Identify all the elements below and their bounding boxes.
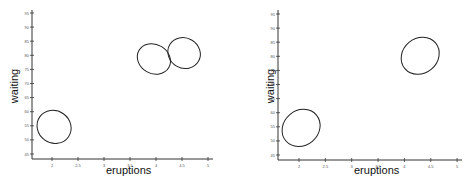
y-tick-label: 45	[25, 152, 30, 157]
y-tick-label: 60	[25, 109, 30, 114]
x-tick-label: 2	[51, 163, 54, 168]
x-tick-label: 5	[456, 164, 459, 169]
right-x-axis-label: eruptions	[354, 164, 399, 176]
y-tick-label: 85	[271, 40, 276, 45]
contour-ellipse	[394, 29, 447, 82]
y-tick-label: 95	[25, 11, 30, 16]
x-tick-label: 5	[207, 163, 210, 168]
y-tick-label: 85	[25, 39, 30, 44]
y-tick-label: 55	[271, 124, 276, 129]
left-x-axis-label: eruptions	[106, 164, 151, 176]
y-tick-label: 55	[25, 123, 30, 128]
y-tick-label: 80	[271, 54, 276, 59]
x-tick-label: 2	[298, 164, 301, 169]
y-tick-label: 75	[25, 67, 30, 72]
y-tick-label: 90	[271, 26, 276, 31]
contour-ellipse	[31, 104, 78, 150]
left-contour-plot: 455055606570758085909522.533.544.55	[0, 0, 237, 189]
left-y-axis-label: waiting	[8, 69, 20, 103]
x-tick-label: 2.5	[75, 163, 81, 168]
y-tick-label: 80	[25, 53, 30, 58]
x-tick-label: 4.5	[428, 164, 434, 169]
y-tick-label: 50	[25, 137, 30, 142]
y-tick-label: 50	[271, 138, 276, 143]
y-tick-label: 95	[271, 12, 276, 17]
right-y-axis-label: waiting	[264, 69, 276, 103]
y-tick-label: 45	[271, 153, 276, 158]
x-tick-label: 4	[403, 164, 406, 169]
y-tick-label: 70	[25, 81, 30, 86]
y-tick-label: 65	[25, 95, 30, 100]
y-tick-label: 60	[271, 110, 276, 115]
x-tick-label: 2.5	[323, 164, 329, 169]
x-tick-label: 4.5	[179, 163, 185, 168]
right-chart-panel: 455055606570758085909522.533.544.55 erup…	[238, 0, 475, 189]
left-chart-panel: 455055606570758085909522.533.544.55 erup…	[0, 0, 237, 189]
y-tick-label: 90	[25, 25, 30, 30]
x-tick-label: 4	[155, 163, 158, 168]
contour-ellipse	[275, 102, 328, 155]
